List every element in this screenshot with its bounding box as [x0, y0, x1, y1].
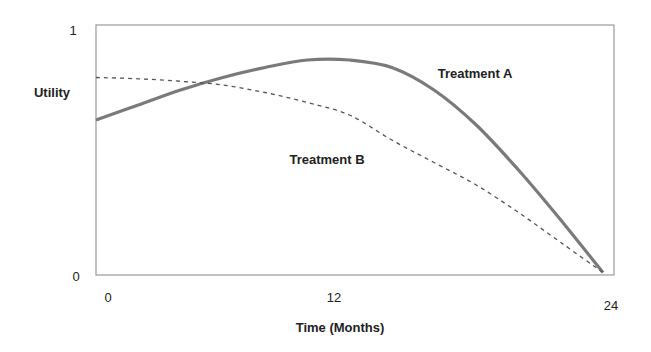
- treatment-a-label: Treatment A: [438, 66, 513, 81]
- y-axis-title: Utility: [34, 85, 70, 100]
- y-tick-1: 1: [69, 23, 76, 38]
- x-axis-title: Time (Months): [296, 320, 385, 335]
- treatment-b-label: Treatment B: [289, 152, 364, 167]
- x-tick-24: 24: [604, 298, 618, 313]
- y-tick-0: 0: [72, 269, 79, 284]
- treatment-b-line: [96, 78, 603, 273]
- x-tick-0: 0: [104, 290, 111, 305]
- plot-frame: [96, 25, 614, 275]
- x-tick-12: 12: [327, 290, 341, 305]
- chart-plot-area: [0, 0, 651, 352]
